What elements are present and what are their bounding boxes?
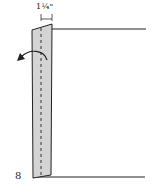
fold-diagram — [0, 0, 151, 187]
step-number: 8 — [15, 170, 21, 181]
measurement-label: 1¼" — [36, 2, 53, 11]
measurement-bracket — [41, 14, 52, 21]
folded-strip — [32, 24, 52, 178]
